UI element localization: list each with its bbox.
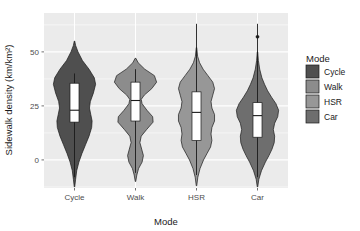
- x-tick-label: Walk: [127, 193, 145, 202]
- y-axis-title: Sidewalk density (km/km²): [3, 45, 14, 156]
- legend-label-walk: Walk: [324, 82, 343, 92]
- x-axis-title: Mode: [154, 216, 178, 227]
- box-walk: [131, 82, 140, 121]
- legend-title: Mode: [306, 53, 330, 64]
- y-tick-label: 25: [30, 102, 39, 111]
- legend-label-hsr: HSR: [324, 97, 342, 107]
- outlier-car: [256, 35, 259, 38]
- legend-swatch-hsr[interactable]: [306, 95, 319, 108]
- x-tick-label: Cycle: [64, 193, 85, 202]
- x-tick-label: HSR: [188, 193, 205, 202]
- box-cycle: [70, 83, 79, 122]
- legend-label-cycle: Cycle: [324, 67, 346, 77]
- violin-plot-figure: 02550 CycleWalkHSRCar Sidewalk density (…: [0, 0, 360, 231]
- y-tick-label: 0: [35, 156, 40, 165]
- legend-label-car: Car: [324, 112, 338, 122]
- box-car: [253, 103, 262, 138]
- y-tick-label: 50: [30, 48, 39, 57]
- box-hsr: [192, 92, 201, 141]
- chart-canvas: 02550 CycleWalkHSRCar Sidewalk density (…: [0, 0, 360, 231]
- legend-swatch-walk[interactable]: [306, 80, 319, 93]
- x-tick-label: Car: [251, 193, 264, 202]
- legend-swatch-cycle[interactable]: [306, 65, 319, 78]
- legend-swatch-car[interactable]: [306, 110, 319, 123]
